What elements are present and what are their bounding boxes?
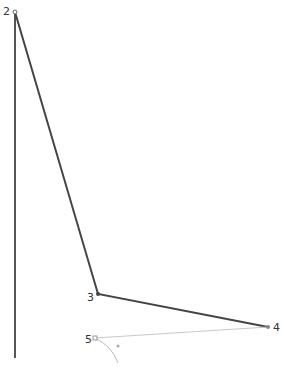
point-label-4: 4 [273,322,280,333]
light-segment [95,327,268,338]
handle-point-5[interactable] [93,336,97,340]
path-canvas [0,0,288,367]
handle-point-4[interactable] [266,325,270,329]
curve-arc [95,338,118,363]
point-label-3: 3 [87,292,94,303]
handle-point-2[interactable] [13,10,17,14]
main-path [15,12,268,327]
point-label-2: 2 [3,6,10,17]
handle-point-3[interactable] [96,292,100,296]
control-dot[interactable] [117,345,120,348]
point-label-5: 5 [85,334,92,345]
